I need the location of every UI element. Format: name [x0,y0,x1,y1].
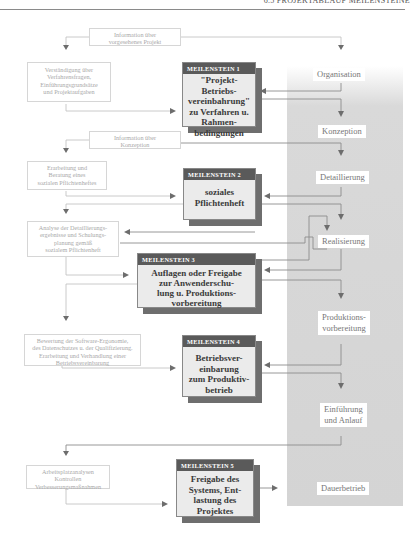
info-box-erarbeitung: Erarbeitung und Beratung eines sozialen … [27,161,107,190]
info-line: Beratung eines [31,171,103,178]
info-line: ergebnisse und Schulungs- [31,231,115,238]
phase-einfuehrung: Einführung und Anlauf [320,403,367,427]
milestone-header: MEILENSTEIN 5 [177,460,253,471]
phase-konzeption-label: Konzeption [322,126,362,136]
phase-konzeption: Konzeption [318,125,366,138]
info-line: Information über [93,31,177,38]
milestone-line: bedingungen [185,128,253,139]
milestone-box: MEILENSTEIN 1 "Projekt-Betriebs- vereinb… [182,62,256,127]
milestone-box: MEILENSTEIN 3 Auflagen oder Freigabe zur… [137,253,256,308]
milestone-line: lastung des [179,495,251,506]
info-box-bewertung: Bewertung der Software-Ergonomie, des Da… [24,334,141,366]
info-box-projekt: Information über vorgesehenes Projekt [89,28,181,46]
phase-organisation-label: Organisation [317,69,361,79]
info-box-arbeitsplatz: Arbeitsplatzanalysen Kontrollen Verbesse… [26,465,110,489]
milestone-header: MEILENSTEIN 1 [183,63,255,74]
info-box-konzeption: Information über Konzeption [89,131,181,149]
phase-organisation: Organisation [313,68,365,81]
milestone-body: Auflagen oder Freigabe zur Anwenderschu-… [138,265,255,311]
milestone-line: zur Anwenderschu- [140,278,253,288]
info-line: Konzeption [93,141,177,148]
milestone-line: zum Produktiv- [185,374,253,385]
milestone-box: MEILENSTEIN 5 Freigabe des Systems, Ent-… [176,459,254,517]
phase-einfuehrung-label-1: Einführung [324,404,363,415]
info-line: Information über [93,134,177,141]
milestone-line: Betriebsver- [185,353,253,364]
milestone-line: Auflagen oder Freigabe [140,268,253,278]
milestone-body: "Projekt-Betriebs- vereinbahrung" zu Ver… [183,74,255,141]
info-line: Verständigung über [31,66,107,73]
info-line: Erarbeitung und Verhandlung einer [28,352,137,359]
info-box-analyse: Analyse der Detaillierungs- ergebnisse u… [27,221,119,257]
milestone-header: MEILENSTEIN 4 [183,336,255,347]
info-line: sozialen Pflichtenheftes [31,179,103,186]
info-line: sozialem Pflichtenheft [31,246,115,253]
milestone-line: Systems, Ent- [179,485,251,496]
info-line: planung gemäß [31,239,115,246]
info-line: und Projektaufgaben [31,88,107,95]
milestone-line: soziales [186,187,253,198]
phase-einfuehrung-label-2: und Anlauf [324,415,363,426]
info-line: Verbesserungsmaßnahmen [30,483,106,490]
milestone-body: soziales Pflichtenheft [184,180,255,211]
info-line: Kontrollen [30,475,106,482]
info-line: Analyse der Detaillierungs- [31,224,115,231]
info-line: Betriebsvereinbarung [28,359,137,366]
milestone-body: Freigabe des Systems, Ent- lastung des P… [177,471,253,519]
milestone-body: Betriebsver- einbarung zum Produktiv- be… [183,347,255,398]
phase-produktion-label-1: Produktions- [322,312,366,323]
phase-produktionsvorbereitung: Produktions- vorbereitung [318,311,370,335]
milestone-line: betrieb [185,385,253,396]
phase-dauerbetrieb-label: Dauerbetrieb [321,483,365,493]
milestone-line: Projektes [179,506,251,517]
milestone-line: Pflichtenheft [186,198,253,209]
info-line: vorgesehenes Projekt [93,38,177,45]
phase-realisierung: Realisierung [318,235,369,248]
info-box-verstaendigung: Verständigung über Verfahrensfragen, Ein… [27,62,111,102]
milestone-line: einbarung [185,364,253,375]
phase-dauerbetrieb: Dauerbetrieb [317,482,369,495]
milestone-header: MEILENSTEIN 2 [184,169,255,180]
milestone-line: lung u. Produktions- [140,288,253,298]
info-line: Erarbeitung und [31,164,103,171]
info-line: des Datenschutzes u. der Qualifizierung. [28,344,137,351]
phase-detaillierung: Detaillierung [316,171,369,184]
milestone-box: MEILENSTEIN 2 soziales Pflichtenheft [183,168,256,220]
milestone-line: Rahmen- [185,117,253,128]
milestone-line: zu Verfahren u. [185,107,253,118]
milestone-box: MEILENSTEIN 4 Betriebsver- einbarung zum… [182,335,256,397]
info-line: Bewertung der Software-Ergonomie, [28,337,137,344]
milestone-line: Freigabe des [179,474,251,485]
phase-realisierung-label: Realisierung [322,236,365,246]
info-line: Einführungsgrundsätze [31,81,107,88]
phase-produktion-label-2: vorbereitung [322,323,366,334]
milestone-line: "Projekt-Betriebs- [185,75,253,96]
info-line: Verfahrensfragen, [31,73,107,80]
milestone-line: vereinbahrung" [185,96,253,107]
milestone-line: vorbereitung [140,298,253,308]
info-line: Arbeitsplatzanalysen [30,468,106,475]
milestone-header: MEILENSTEIN 3 [138,254,255,265]
phase-detaillierung-label: Detaillierung [320,172,365,182]
